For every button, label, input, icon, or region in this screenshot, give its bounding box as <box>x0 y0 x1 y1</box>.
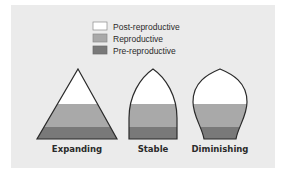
legend-item-pre-reproductive: Pre-reproductive <box>93 46 176 56</box>
legend: Post-reproductive Reproductive Pre-repro… <box>93 22 180 56</box>
legend-swatch-post-reproductive <box>93 22 107 30</box>
legend-item-reproductive: Reproductive <box>93 34 163 44</box>
age-structure-diagram: Post-reproductive Reproductive Pre-repro… <box>0 0 282 175</box>
legend-swatch-pre-reproductive <box>93 46 107 54</box>
pre-reproductive-band <box>125 127 181 140</box>
expanding-pyramid: Expanding <box>30 60 125 154</box>
legend-label-reproductive: Reproductive <box>113 34 163 44</box>
legend-label-post-reproductive: Post-reproductive <box>113 22 180 32</box>
pre-reproductive-band <box>188 127 252 140</box>
reproductive-band <box>188 104 252 127</box>
reproductive-band <box>125 104 181 127</box>
stable-pyramid: Stable <box>125 60 181 154</box>
legend-swatch-reproductive <box>93 34 107 42</box>
legend-item-post-reproductive: Post-reproductive <box>93 22 180 32</box>
stable-label: Stable <box>138 144 169 154</box>
diminishing-label: Diminishing <box>192 144 249 154</box>
diminishing-pyramid: Diminishing <box>188 60 252 154</box>
legend-label-pre-reproductive: Pre-reproductive <box>113 46 176 56</box>
expanding-label: Expanding <box>52 144 102 154</box>
reproductive-band <box>30 104 125 127</box>
